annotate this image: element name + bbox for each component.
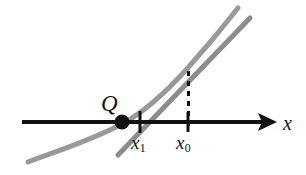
figure-canvas: Q x1 x0 x — [0, 0, 306, 175]
label-point-q: Q — [101, 92, 118, 115]
label-tick-x0-subscript: 0 — [185, 142, 191, 155]
point-q-marker — [115, 115, 130, 130]
newton-tangent-diagram — [0, 0, 306, 175]
label-point-q-text: Q — [101, 91, 118, 116]
label-axis-x: x — [283, 113, 292, 133]
label-tick-x1: x1 — [131, 133, 146, 155]
label-axis-x-text: x — [283, 112, 292, 134]
label-tick-x1-base: x — [131, 132, 139, 153]
label-tick-x1-subscript: 1 — [140, 142, 146, 155]
label-tick-x0: x0 — [176, 133, 191, 155]
label-tick-x0-base: x — [176, 132, 184, 153]
